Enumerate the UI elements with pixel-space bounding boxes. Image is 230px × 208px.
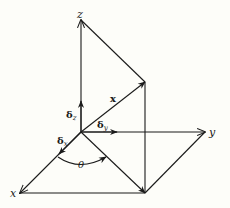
- diagram-svg: z y x x δz δy δx θ: [0, 0, 230, 208]
- theta-label: θ: [78, 159, 84, 170]
- vector-x-label: x: [110, 93, 117, 104]
- y-axis-label: y: [208, 126, 216, 139]
- vector-diagram: z y x x δz δy δx θ: [0, 0, 230, 208]
- vector-x: [81, 82, 145, 132]
- unit-vector-z-label: δz: [66, 109, 77, 122]
- z-axis-label: z: [76, 8, 83, 21]
- xy-projection-vector: [81, 132, 145, 193]
- z-to-point-line: [81, 20, 145, 82]
- unit-vector-x-label: δx: [57, 135, 68, 148]
- floor-edge-y: [145, 132, 205, 193]
- x-axis-label: x: [10, 187, 17, 200]
- unit-vector-y-label: δy: [97, 119, 109, 132]
